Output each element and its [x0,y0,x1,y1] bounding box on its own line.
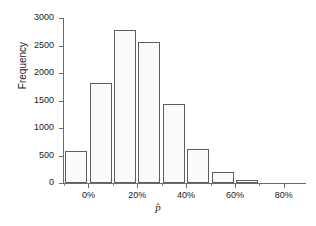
x-axis-minor-tick [162,184,163,186]
histogram-figure: Frequency 050010001500200025003000 0%20%… [0,0,316,226]
y-axis-tick [59,46,63,47]
histogram-bar [65,151,87,183]
y-axis-tick [59,101,63,102]
x-axis-tick [284,184,285,188]
plot-area [64,18,296,183]
x-axis-tick [235,184,236,188]
x-axis-tick [186,184,187,188]
x-axis-title: p̂ [0,201,316,213]
histogram-bar [114,30,136,183]
histogram-bar [212,172,234,183]
y-axis-tick-label: 1500 [14,96,54,105]
y-axis-tick [59,73,63,74]
y-axis-tick-label: 500 [14,151,54,160]
histogram-bar [236,180,258,183]
x-axis-tick [137,184,138,188]
y-axis-tick-label: 1000 [14,123,54,132]
x-axis-tick [88,184,89,188]
x-axis-minor-tick [259,184,260,186]
y-axis-tick [59,128,63,129]
histogram-bar [163,104,185,183]
y-axis-tick-label: 0 [14,178,54,187]
x-axis-tick-label: 40% [166,190,206,200]
histogram-bar [138,42,160,183]
y-axis-tick [59,183,63,184]
y-axis-tick-label: 2500 [14,41,54,50]
y-axis-tick [59,156,63,157]
x-axis-tick-label: 60% [215,190,255,200]
y-axis-tick-label: 2000 [14,68,54,77]
histogram-bar [187,149,209,183]
x-axis-tick-label: 20% [117,190,157,200]
x-axis-tick-label: 80% [264,190,304,200]
histogram-bar [90,83,112,183]
x-axis-minor-tick [64,184,65,186]
x-axis-tick-label: 0% [68,190,108,200]
x-axis-line [63,183,306,184]
y-axis-tick-label: 3000 [14,13,54,22]
x-axis-minor-tick [211,184,212,186]
x-axis-minor-tick [113,184,114,186]
y-axis-tick [59,18,63,19]
